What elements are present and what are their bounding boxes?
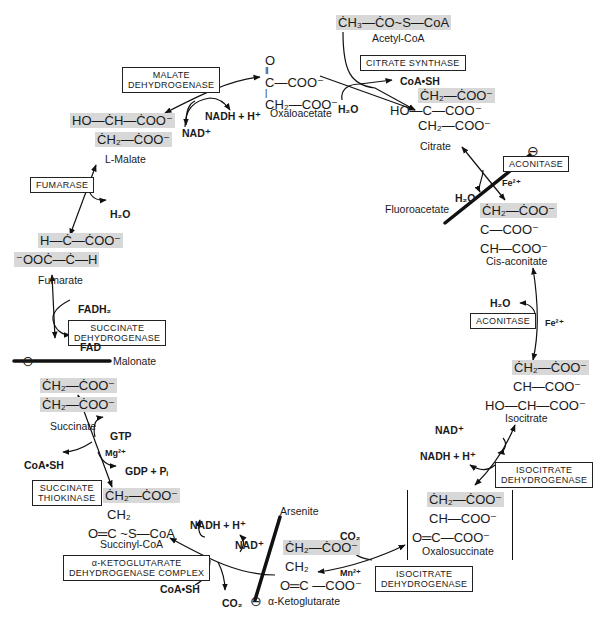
enzyme-aconitase-2: ACONITASE xyxy=(470,313,536,329)
inhibitor-fluoroacetate: Fluoroacetate xyxy=(385,203,449,215)
cofactor-gdp-pi: GDP + Pᵢ xyxy=(125,465,168,477)
enzyme-isocitrate-dehydrogenase-1: ISOCITRATEDEHYDROGENASE xyxy=(495,462,593,488)
isocitrate-label: Isocitrate xyxy=(505,412,548,424)
cofactor-nadh-malate: NADH + H⁺ xyxy=(205,110,261,122)
cofactor-water-aconitase-2: H₂O xyxy=(490,297,510,309)
cis-aconitate-structure: ĊH₂—ĊOO⁻ C—COO⁻ CH—COO⁻ xyxy=(480,203,557,256)
oxaloacetate-label: Oxaloacetate xyxy=(270,107,332,119)
cofactor-nad-malate: NAD⁺ xyxy=(182,127,211,139)
succinyl-coa-structure: ĊH₂—ĊOO⁻ CH₂ O═C ~S—CoA xyxy=(88,488,180,541)
enzyme-isocitrate-dehydrogenase-2: ISOCITRATEDEHYDROGENASE xyxy=(375,566,473,592)
acetyl-coa-formula: ĊH₃—ĊO~S—CoA xyxy=(336,15,451,30)
acetyl-coa-label: Acetyl-CoA xyxy=(372,32,425,44)
cofactor-fadh2: FADH₂ xyxy=(78,303,111,315)
enzyme-malate-dehydrogenase: MALATEDEHYDROGENASE xyxy=(122,67,220,93)
cofactor-nad-akg: NAD⁺ xyxy=(235,539,264,551)
malate-structure: HO—ĊH—ĊOO⁻ ĊH₂—ĊOO⁻ xyxy=(70,113,175,147)
cofactor-nadh-akg: NADH + H⁺ xyxy=(190,519,246,531)
citrate-structure: ĊH₂—ĊOO⁻ HO—C—COO⁻ CH₂—COO⁻ xyxy=(390,88,495,133)
cofactor-gtp: GTP xyxy=(110,430,132,442)
oxaloacetate-structure: O ‖ C—COO⁻ | CH₂—COO⁻ xyxy=(265,53,338,112)
cofactor-coash-succinate: CoA•SH xyxy=(24,459,64,471)
malate-label: L-Malate xyxy=(105,153,146,165)
cofactor-coash-released: CoA•SH xyxy=(400,75,440,87)
inhibitor-malonate: Malonate xyxy=(113,355,156,367)
arsenite-inhibition-symbol: ⊖ xyxy=(250,593,262,609)
cofactor-fad: FAD xyxy=(80,341,101,353)
cofactor-water-aconitase-1: H₂O xyxy=(455,192,475,204)
succinate-structure: ĊH₂—ĊOO⁻ ĊH₂—ĊOO⁻ xyxy=(40,378,117,412)
cofactor-water-fumarase: H₂O xyxy=(110,208,130,220)
cofactor-coash-akg: CoA•SH xyxy=(160,583,200,595)
cofactor-mg: Mg²⁺ xyxy=(105,448,126,458)
cofactor-water-citrate-synthase: H₂O xyxy=(338,103,358,115)
fumarate-label: Fumarate xyxy=(38,274,83,286)
enzyme-fumarase: FUMARASE xyxy=(30,177,94,193)
malonate-inhibition-symbol: ⊖ xyxy=(22,353,34,369)
citrate-label: Citrate xyxy=(420,140,451,152)
alpha-ketoglutarate-structure: ĊH₂—ĊOO⁻ CH₂ O═C —COO⁻ xyxy=(280,540,362,593)
fluoroacetate-inhibition-symbol: ⊖ xyxy=(527,143,539,159)
citric-acid-cycle-diagram: ĊH₃—ĊO~S—CoA Acetyl-CoA CITRATE SYNTHASE… xyxy=(0,0,597,624)
succinyl-coa-label: Succinyl-CoA xyxy=(100,538,163,550)
fumarate-structure: H—Ċ—ĊOO⁻ ⁻OOĊ—Ċ—H xyxy=(38,233,123,267)
cofactor-mn: Mn²⁺ xyxy=(340,568,361,578)
cis-aconitate-label: Cis-aconitate xyxy=(486,255,547,267)
alpha-ketoglutarate-label: α-Ketoglutarate xyxy=(268,595,340,607)
oxalosuccinate-structure: ĊH₂—ĊOO⁻ CH—COO⁻ O═C—COO⁻ Oxalosuccinate xyxy=(407,490,513,560)
cofactor-fe-2: Fe²⁺ xyxy=(545,318,564,328)
enzyme-alpha-ketoglutarate-dehydrogenase-complex: α-KETOGLUTARATEDEHYDROGENASE COMPLEX xyxy=(63,555,210,581)
inhibitor-arsenite: Arsenite xyxy=(280,505,319,517)
cofactor-nad-isocitrate: NAD⁺ xyxy=(435,424,464,436)
succinate-label: Succinate xyxy=(50,420,96,432)
oxalosuccinate-label: Oxalosuccinate xyxy=(412,545,504,557)
cofactor-nadh-isocitrate: NADH + H⁺ xyxy=(420,450,476,462)
cofactor-co2-akg: CO₂ xyxy=(222,597,242,609)
cofactor-fe-1: Fe²⁺ xyxy=(502,178,521,188)
isocitrate-structure: ĊH₂—ĊOO⁻ CH—COO⁻ HO—CH—COO⁻ xyxy=(485,360,589,413)
cofactor-co2-oxalosuccinate: CO₂ xyxy=(340,530,360,542)
enzyme-citrate-synthase: CITRATE SYNTHASE xyxy=(360,55,466,71)
